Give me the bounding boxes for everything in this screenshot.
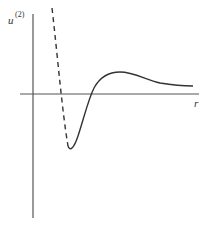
y-axis-label: u — [8, 14, 14, 26]
dashed-curve — [52, 8, 68, 146]
y-axis-label-sup: (2) — [15, 10, 25, 19]
x-axis-label: r — [194, 97, 199, 109]
solid-curve — [68, 72, 193, 149]
potential-diagram: u (2) r — [0, 0, 210, 226]
